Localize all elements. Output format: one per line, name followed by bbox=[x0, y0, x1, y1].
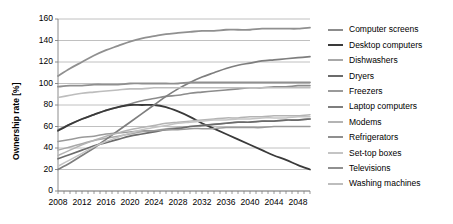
legend-item-label: Laptop computers bbox=[349, 102, 417, 111]
legend-item-label: Modems bbox=[349, 118, 382, 127]
legend-swatch-icon bbox=[328, 121, 343, 123]
legend-item-label: Set-top boxes bbox=[349, 149, 401, 158]
legend-swatch-icon bbox=[328, 44, 343, 46]
legend-swatch-icon bbox=[328, 90, 343, 92]
legend-item-label: Televisions bbox=[349, 164, 391, 173]
legend-item[interactable]: Laptop computers bbox=[328, 99, 453, 114]
legend-item[interactable]: Freezers bbox=[328, 84, 453, 99]
legend-swatch-icon bbox=[328, 29, 343, 31]
legend-item[interactable]: Modems bbox=[328, 114, 453, 129]
legend-item[interactable]: Washing machines bbox=[328, 176, 453, 191]
chart-figure: Ownership rate [%] 020406080100120140160… bbox=[0, 0, 453, 224]
series-line-dryers bbox=[58, 119, 310, 159]
legend-item-label: Washing machines bbox=[349, 179, 421, 188]
legend-swatch-icon bbox=[328, 106, 343, 108]
series-line-desktop-computers bbox=[58, 105, 310, 170]
legend-item[interactable]: Computer screens bbox=[328, 22, 453, 37]
legend-swatch-icon bbox=[328, 152, 343, 154]
series-line-televisions bbox=[58, 28, 310, 76]
legend-item-label: Desktop computers bbox=[349, 41, 422, 50]
legend-item[interactable]: Dryers bbox=[328, 68, 453, 83]
series-line-washing-machines bbox=[58, 88, 310, 98]
legend-item-label: Refrigerators bbox=[349, 133, 398, 142]
legend-item[interactable]: Televisions bbox=[328, 161, 453, 176]
legend-swatch-icon bbox=[328, 167, 343, 169]
legend-item-label: Dryers bbox=[349, 72, 374, 81]
legend-swatch-icon bbox=[328, 59, 343, 61]
chart-legend: Computer screensDesktop computersDishwas… bbox=[328, 22, 453, 191]
legend-item[interactable]: Dishwashers bbox=[328, 53, 453, 68]
legend-swatch-icon bbox=[328, 136, 343, 138]
legend-item[interactable]: Desktop computers bbox=[328, 37, 453, 52]
legend-swatch-icon bbox=[328, 183, 343, 185]
series-line-set-top-boxes bbox=[58, 117, 310, 167]
legend-swatch-icon bbox=[328, 75, 343, 77]
legend-item-label: Dishwashers bbox=[349, 56, 398, 65]
legend-item-label: Computer screens bbox=[349, 25, 418, 34]
legend-item[interactable]: Refrigerators bbox=[328, 130, 453, 145]
legend-item-label: Freezers bbox=[349, 87, 383, 96]
legend-item[interactable]: Set-top boxes bbox=[328, 145, 453, 160]
